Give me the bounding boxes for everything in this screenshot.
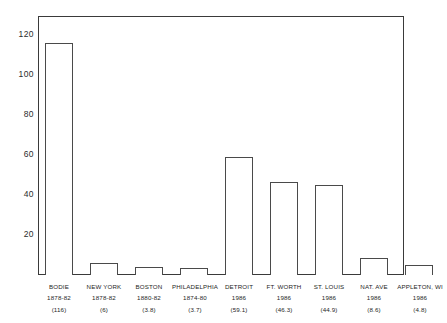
x-axis-category-labels: BODIE 1878-82 (116) NEW YORK 1878-82 (6)… xyxy=(38,281,404,323)
y-tick-label-120: 120 xyxy=(4,30,34,39)
bars-layer xyxy=(38,16,404,275)
category-label-appleton-wi: APPLETON, WI 1986 (4.8) xyxy=(390,281,447,315)
y-tick-label-80: 80 xyxy=(4,110,34,119)
bar-nat-ave xyxy=(360,258,388,275)
category-name-appleton-wi: APPLETON, WI xyxy=(390,281,447,292)
bar-appleton-wi xyxy=(405,265,433,275)
category-years-appleton-wi: 1986 xyxy=(390,292,447,303)
category-value-appleton-wi: (4.8) xyxy=(390,304,447,315)
y-tick-label-100: 100 xyxy=(4,70,34,79)
y-axis: 120 100 80 60 40 20 xyxy=(0,0,34,323)
bar-boston xyxy=(135,267,163,275)
bar-philadelphia xyxy=(180,268,208,275)
bar-bodie xyxy=(45,43,73,275)
y-tick-label-40: 40 xyxy=(4,190,34,199)
bar-detroit xyxy=(225,157,253,275)
y-tick-label-60: 60 xyxy=(4,150,34,159)
y-tick-label-20: 20 xyxy=(4,230,34,239)
bar-ft-worth xyxy=(270,182,298,275)
bar-st-louis xyxy=(315,185,343,275)
bar-new-york xyxy=(90,263,118,275)
